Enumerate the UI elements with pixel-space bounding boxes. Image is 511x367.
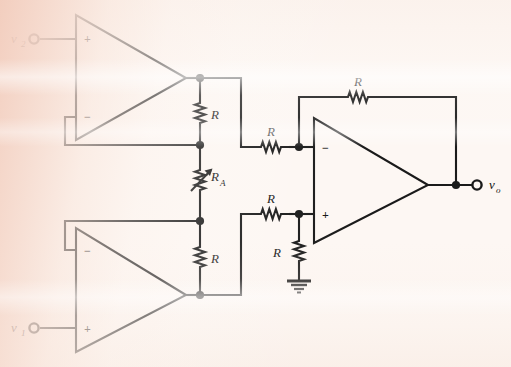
terminal-vo[interactable]: [472, 180, 481, 189]
resistor-gain-label: R: [210, 169, 219, 184]
resistor-bottom-bridge: [195, 241, 205, 275]
resistor-to-ground: [294, 235, 304, 269]
resistor-inverting-input-label: R: [266, 124, 275, 139]
resistor-inverting-input: [255, 142, 289, 152]
junction-dot-bridge-top: [196, 74, 204, 82]
bottom-opamp-minus-sign: −: [84, 244, 91, 258]
label-v2-subscript: 2: [21, 39, 26, 49]
ground-icon: [287, 281, 311, 293]
figure-canvas: + − − + − + R R A R R: [0, 0, 511, 367]
resistor-top-bridge-label: R: [210, 107, 219, 122]
resistor-gain-variable: [191, 164, 213, 198]
label-vo-subscript: o: [496, 185, 501, 195]
label-v1: v: [11, 320, 17, 335]
circuit-schematic: + − − + − + R R A R R: [0, 0, 511, 367]
resistor-gain-sublabel: A: [219, 178, 226, 188]
junction-dot-bridge-lower-mid: [196, 217, 204, 225]
junction-dot-output-node: [452, 181, 460, 189]
bottom-opamp-body: [76, 228, 186, 352]
terminal-v1[interactable]: [29, 323, 38, 332]
resistor-noninverting-input: [255, 209, 289, 219]
top-opamp-plus-sign: +: [84, 32, 91, 46]
opamp-bodies: [76, 15, 428, 352]
resistor-to-ground-label: R: [272, 245, 281, 260]
top-opamp-body: [76, 15, 186, 140]
bottom-opamp-plus-sign: +: [84, 322, 91, 336]
right-opamp-minus-sign: −: [322, 141, 329, 155]
right-opamp-plus-sign: +: [322, 208, 329, 222]
label-v2: v: [11, 31, 17, 46]
right-opamp-body: [314, 118, 428, 243]
resistor-noninverting-input-label: R: [266, 191, 275, 206]
wire-feedback-right: [376, 97, 456, 185]
resistor-feedback-label: R: [353, 74, 362, 89]
top-opamp-minus-sign: −: [84, 110, 91, 124]
junction-dot-noninverting-node: [295, 210, 303, 218]
junction-dot-inverting-node: [295, 143, 303, 151]
resistor-feedback: [342, 92, 376, 102]
label-vo: v: [489, 177, 495, 192]
wire-network: [40, 39, 472, 328]
wire-top-to-inverting-branch: [200, 78, 255, 147]
resistor-bottom-bridge-label: R: [210, 251, 219, 266]
junction-dot-bridge-bottom: [196, 291, 204, 299]
open-terminals: [29, 34, 481, 332]
junction-dots: [196, 74, 460, 299]
terminal-v2[interactable]: [29, 34, 38, 43]
label-v1-subscript: 1: [21, 328, 26, 338]
resistor-top-bridge: [195, 97, 205, 131]
wire-bottom-to-noninverting-branch: [200, 214, 255, 295]
junction-dot-bridge-upper-mid: [196, 141, 204, 149]
